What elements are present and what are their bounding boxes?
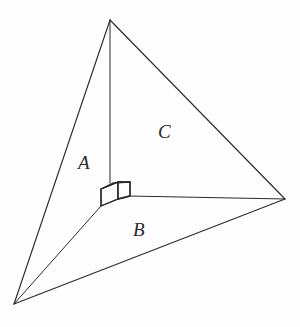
edge-corner-to-bottom-left-A — [14, 206, 101, 304]
edge-label-c: C — [158, 122, 171, 141]
edge-apex-to-right — [110, 20, 285, 199]
edge-bottom-left-to-right — [14, 199, 285, 304]
edge-label-b: B — [133, 220, 145, 239]
tetrahedron-diagram — [0, 0, 300, 327]
edge-apex-to-bottom-left — [14, 20, 110, 304]
edge-corner-to-right-B — [128, 196, 285, 199]
right-angle-cube-marker — [101, 182, 130, 206]
edge-label-a: A — [78, 153, 90, 172]
figure-canvas: A B C — [0, 0, 300, 327]
